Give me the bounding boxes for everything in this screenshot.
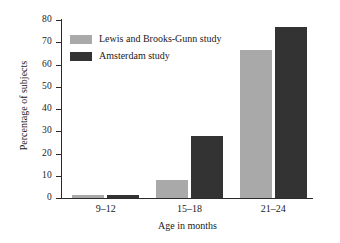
x-axis-title: Age in months (62, 220, 313, 231)
y-axis-title: Percentage of subjects (18, 36, 29, 176)
bar (240, 50, 272, 198)
bar (107, 195, 139, 198)
y-axis-tick-label: 80 (12, 15, 52, 25)
bar-chart: 01020304050607080 9–1215–1821–24 Age in … (0, 0, 340, 243)
bar (275, 27, 307, 198)
bar (156, 180, 188, 198)
chart-legend: Lewis and Brooks-Gunn study Amsterdam st… (70, 32, 222, 66)
legend-swatch-icon (70, 35, 92, 44)
x-axis-tick-label: 9–12 (71, 203, 141, 215)
x-axis-tick-label: 15–18 (155, 203, 225, 215)
x-axis-line (61, 198, 313, 199)
legend-item: Amsterdam study (70, 49, 222, 63)
y-axis-tick-label: 0 (12, 193, 52, 203)
legend-item-label: Lewis and Brooks-Gunn study (99, 34, 222, 44)
legend-swatch-icon (70, 52, 92, 61)
bar (191, 136, 223, 198)
legend-item-label: Amsterdam study (99, 51, 170, 61)
x-axis-tick-label: 21–24 (238, 203, 308, 215)
legend-item: Lewis and Brooks-Gunn study (70, 32, 222, 46)
y-axis-tick (56, 198, 62, 199)
bar (72, 195, 104, 198)
